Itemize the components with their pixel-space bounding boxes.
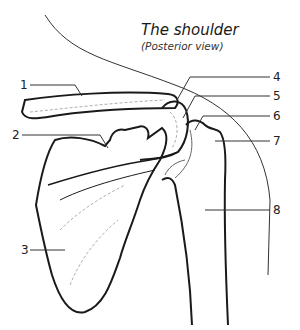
humerus-shaft-left <box>162 178 192 325</box>
label-5: 5 <box>273 90 281 102</box>
label-8: 8 <box>273 204 281 216</box>
label-3: 3 <box>21 244 29 256</box>
humerus-head <box>186 120 225 180</box>
body-outline <box>45 15 270 275</box>
label-1: 1 <box>20 79 28 91</box>
label-6: 6 <box>273 110 281 122</box>
shoulder-illustration <box>0 0 300 330</box>
label-7: 7 <box>273 135 281 147</box>
label-2: 2 <box>12 129 20 141</box>
leader-4 <box>177 77 270 100</box>
humerus-shaft-right <box>225 180 228 325</box>
label-4: 4 <box>273 71 281 83</box>
leader-5 <box>183 96 270 118</box>
clavicle <box>22 93 178 119</box>
scapula <box>36 126 166 312</box>
